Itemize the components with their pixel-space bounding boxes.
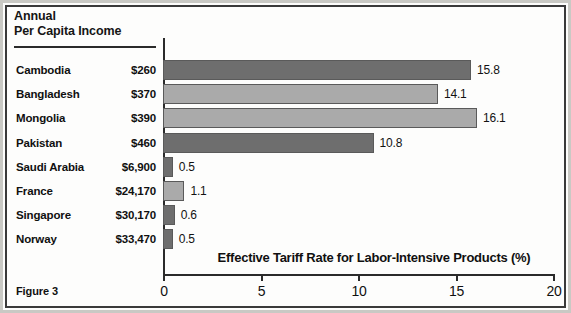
row-country-label: Bangladesh	[16, 88, 80, 100]
x-tick-label: 10	[351, 283, 366, 299]
x-tick-mark	[553, 274, 555, 281]
row-country-label: Mongolia	[16, 112, 65, 124]
x-axis-title: Effective Tariff Rate for Labor-Intensiv…	[196, 250, 552, 265]
row-income-label: $260	[131, 64, 156, 76]
row-income-label: $390	[131, 112, 156, 124]
row-income-label: $30,170	[115, 209, 156, 221]
x-tick-mark	[358, 274, 360, 281]
plot-area: 15.814.116.110.80.51.10.60.5 05101520	[163, 38, 553, 276]
row-country-label: Singapore	[16, 209, 71, 221]
bar-cambodia	[163, 60, 471, 80]
row-country-label: Cambodia	[16, 64, 70, 76]
row-country-label: Pakistan	[16, 137, 62, 149]
bar-value-label: 14.1	[444, 87, 467, 101]
row-income-label: $460	[131, 137, 156, 149]
x-tick-label: 0	[160, 283, 168, 299]
bar-singapore	[163, 205, 175, 225]
bar-value-label: 10.8	[380, 136, 403, 150]
x-tick-label: 15	[449, 283, 464, 299]
bar-norway	[163, 229, 173, 249]
bar-value-label: 1.1	[190, 184, 206, 198]
figure-container: Annual Per Capita Income Cambodia$260Ban…	[0, 0, 571, 313]
x-tick-label: 5	[258, 283, 266, 299]
row-country-label: France	[16, 185, 53, 197]
bar-mongolia	[163, 108, 477, 128]
bar-saudi-arabia	[163, 157, 173, 177]
bar-france	[163, 181, 184, 201]
row-country-label: Norway	[16, 233, 57, 245]
bar-value-label: 15.8	[477, 63, 500, 77]
row-income-label: $24,170	[115, 185, 156, 197]
row-income-label: $370	[131, 88, 156, 100]
bar-value-label: 0.5	[179, 232, 195, 246]
x-tick-mark	[456, 274, 458, 281]
row-income-label: $33,470	[115, 233, 156, 245]
figure-caption: Figure 3	[16, 285, 58, 297]
bar-value-label: 0.6	[181, 208, 197, 222]
bar-value-label: 16.1	[483, 111, 506, 125]
x-tick-mark	[163, 274, 165, 281]
bar-bangladesh	[163, 84, 438, 104]
row-income-label: $6,900	[122, 161, 156, 173]
row-country-label: Saudi Arabia	[16, 161, 84, 173]
x-tick-mark	[261, 274, 263, 281]
bar-value-label: 0.5	[179, 160, 195, 174]
x-tick-label: 20	[546, 283, 561, 299]
bar-pakistan	[163, 133, 374, 153]
